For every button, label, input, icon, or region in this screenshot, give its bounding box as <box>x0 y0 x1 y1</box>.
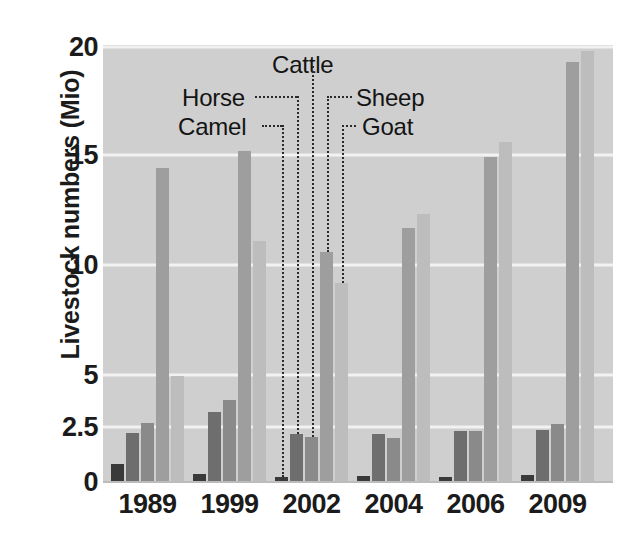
bar-goat-2002 <box>335 283 348 483</box>
livestock-bar-chart: Livestock numbers (Mio) 02.55101520 1989… <box>0 0 631 538</box>
bar-horse-2006 <box>454 431 467 483</box>
x-tick-1999: 1999 <box>200 489 258 520</box>
leader-line-goat-vertical <box>342 125 344 283</box>
y-axis-tick-labels: 02.55101520 <box>28 0 98 538</box>
callout-label-sheep: Sheep <box>356 84 424 112</box>
leader-line-sheep-horizontal <box>327 96 353 98</box>
y-tick-15: 15 <box>32 140 98 171</box>
bar-goat-1989 <box>171 376 184 483</box>
bar-goat-2009 <box>581 51 594 483</box>
bar-goat-1999 <box>253 241 266 483</box>
bar-sheep-1999 <box>238 151 251 483</box>
bar-sheep-2009 <box>566 62 579 483</box>
y-tick-20: 20 <box>32 32 98 63</box>
bar-cattle-2009 <box>551 424 564 483</box>
callout-label-cattle: Cattle <box>272 51 334 79</box>
bar-cattle-2002 <box>305 437 318 483</box>
gridline-15 <box>103 154 613 157</box>
bar-horse-1989 <box>126 433 139 484</box>
bar-sheep-2002 <box>320 252 333 483</box>
x-tick-1989: 1989 <box>118 489 176 520</box>
leader-line-goat-horizontal <box>342 125 357 127</box>
x-tick-2004: 2004 <box>364 489 422 520</box>
bar-sheep-2004 <box>402 228 415 483</box>
y-tick-0: 0 <box>32 467 98 498</box>
leader-line-horse-horizontal <box>255 96 297 98</box>
y-tick-10: 10 <box>32 250 98 281</box>
bar-horse-2002 <box>290 434 303 483</box>
y-tick-5: 5 <box>32 360 98 391</box>
bar-horse-2009 <box>536 430 549 483</box>
bar-horse-2004 <box>372 434 385 483</box>
callout-label-horse: Horse <box>182 84 245 112</box>
x-tick-2009: 2009 <box>528 489 586 520</box>
bar-sheep-1989 <box>156 168 169 483</box>
axis-baseline <box>103 481 613 483</box>
leader-line-camel-vertical <box>282 125 284 477</box>
bar-horse-1999 <box>208 412 221 483</box>
x-tick-2002: 2002 <box>282 489 340 520</box>
leader-line-camel-horizontal <box>262 125 282 127</box>
gridline-10 <box>103 264 613 267</box>
bar-cattle-1989 <box>141 423 154 483</box>
leader-line-sheep-vertical <box>327 96 329 252</box>
bar-goat-2006 <box>499 142 512 483</box>
bar-cattle-2006 <box>469 431 482 483</box>
leader-line-horse-vertical <box>297 96 299 434</box>
x-tick-2006: 2006 <box>446 489 504 520</box>
callout-label-camel: Camel <box>178 113 246 141</box>
bar-cattle-2004 <box>387 438 400 483</box>
y-tick-2.5: 2.5 <box>32 412 98 443</box>
bar-sheep-2006 <box>484 157 497 483</box>
leader-line-cattle <box>312 66 314 437</box>
gridline-20 <box>103 46 613 49</box>
bar-cattle-1999 <box>223 400 236 483</box>
bar-goat-2004 <box>417 214 430 483</box>
callout-label-goat: Goat <box>362 113 413 141</box>
